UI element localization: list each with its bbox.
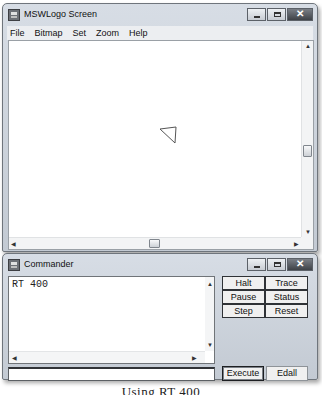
vertical-scrollbar[interactable]: ▲ ▼	[301, 41, 313, 237]
figure-caption: Using RT 400	[0, 384, 322, 395]
status-button[interactable]: Status	[265, 290, 308, 304]
step-button[interactable]: Step	[222, 304, 265, 318]
menu-bar: File Bitmap Set Zoom Help	[7, 26, 313, 40]
command-history[interactable]: RT 400 ▲ ▼ ◀ ▶	[8, 276, 215, 364]
app-icon	[8, 259, 20, 271]
pause-button[interactable]: Pause	[222, 290, 265, 304]
window-controls: ✕	[247, 258, 313, 271]
trace-button[interactable]: Trace	[265, 276, 308, 290]
commander-button-grid: Halt Trace Pause Status Step Reset	[222, 276, 308, 318]
scroll-right-arrow[interactable]: ▶	[192, 355, 197, 361]
scroll-left-arrow[interactable]: ◀	[12, 355, 17, 361]
menu-file[interactable]: File	[9, 28, 26, 38]
history-horizontal-scrollbar[interactable]: ◀ ▶	[9, 351, 205, 363]
drawing-canvas[interactable]: ▲ ▼ ◀ ▶	[8, 40, 314, 250]
scroll-up-arrow[interactable]: ▲	[305, 43, 311, 49]
close-icon: ✕	[288, 258, 312, 269]
scroll-up-arrow[interactable]: ▲	[207, 281, 213, 287]
execute-button[interactable]: Execute	[222, 366, 264, 381]
commander-title: Commander	[24, 259, 74, 269]
close-icon: ✕	[288, 8, 312, 19]
minimize-button[interactable]	[247, 8, 266, 21]
title-bar[interactable]: MSWLogo Screen ✕	[3, 4, 317, 26]
window-title: MSWLogo Screen	[24, 9, 97, 19]
menu-set[interactable]: Set	[72, 28, 88, 38]
scroll-down-arrow[interactable]: ▼	[207, 342, 213, 348]
edall-button[interactable]: Edall	[266, 366, 308, 381]
command-input[interactable]	[8, 367, 215, 381]
resize-grip[interactable]	[301, 237, 313, 249]
scroll-left-arrow[interactable]: ◀	[11, 241, 16, 247]
maximize-button[interactable]	[267, 8, 286, 21]
reset-button[interactable]: Reset	[265, 304, 308, 318]
scroll-down-arrow[interactable]: ▼	[305, 229, 311, 235]
minimize-button[interactable]	[247, 258, 266, 271]
mswlogo-screen-window: MSWLogo Screen ✕ File Bitmap Set Zoom He…	[2, 3, 318, 252]
horizontal-scrollbar[interactable]: ◀ ▶	[9, 237, 301, 249]
menu-help[interactable]: Help	[128, 28, 149, 38]
turtle-icon	[149, 125, 179, 147]
close-button[interactable]: ✕	[287, 8, 313, 21]
scroll-right-arrow[interactable]: ▶	[294, 241, 299, 247]
history-vertical-scrollbar[interactable]: ▲ ▼	[205, 277, 214, 351]
close-button[interactable]: ✕	[287, 258, 313, 271]
maximize-icon	[274, 12, 281, 17]
history-text: RT 400	[12, 279, 48, 290]
window-controls: ✕	[247, 8, 313, 21]
app-icon	[8, 9, 20, 21]
commander-title-bar[interactable]: Commander ✕	[3, 254, 317, 276]
maximize-icon	[274, 262, 281, 267]
horizontal-scroll-thumb[interactable]	[149, 239, 160, 248]
minimize-icon	[254, 266, 260, 268]
minimize-icon	[254, 16, 260, 18]
vertical-scroll-thumb[interactable]	[303, 145, 312, 157]
maximize-button[interactable]	[267, 258, 286, 271]
commander-window: Commander ✕ RT 400 ▲ ▼ ◀ ▶ Halt Trace Pa…	[2, 253, 318, 380]
menu-bitmap[interactable]: Bitmap	[34, 28, 64, 38]
menu-zoom[interactable]: Zoom	[95, 28, 120, 38]
halt-button[interactable]: Halt	[222, 276, 265, 290]
